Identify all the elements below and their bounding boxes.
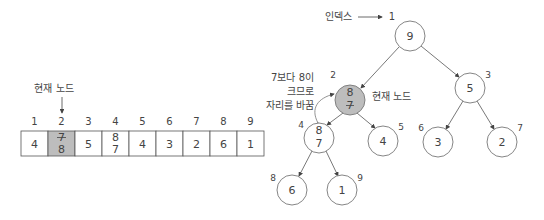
svg-text:5: 5 [85, 138, 92, 151]
svg-text:7: 7 [193, 116, 199, 127]
svg-text:3: 3 [485, 70, 491, 80]
heap-diagram: 현재 노드 1 2 3 4 5 6 7 8 9 4 7 8 5 8 7 4 3 … [0, 0, 544, 220]
svg-text:4: 4 [31, 138, 38, 151]
svg-text:2: 2 [58, 116, 64, 127]
tree-edges [299, 46, 494, 176]
svg-text:3: 3 [435, 136, 442, 149]
svg-text:9: 9 [357, 173, 363, 183]
svg-text:2: 2 [193, 138, 200, 151]
swap-note: 7보다 8이 크므로 자리를 바꿈 [266, 72, 314, 111]
svg-text:4: 4 [298, 120, 304, 130]
svg-text:자리를 바꿈: 자리를 바꿈 [266, 100, 314, 111]
svg-text:6: 6 [220, 138, 227, 151]
svg-text:5: 5 [139, 116, 145, 127]
svg-text:8: 8 [347, 86, 354, 99]
svg-text:8: 8 [270, 173, 276, 183]
svg-text:4: 4 [139, 138, 146, 151]
array-current-node-label: 현재 노드 [34, 83, 73, 94]
svg-text:1: 1 [339, 184, 346, 197]
svg-text:1: 1 [389, 11, 395, 22]
tree-current-node-label: 현재 노드 [372, 91, 411, 102]
svg-text:7: 7 [112, 143, 119, 156]
svg-text:5: 5 [398, 122, 404, 132]
svg-text:5: 5 [467, 82, 474, 95]
svg-text:8: 8 [58, 143, 65, 156]
array-indices: 1 2 3 4 5 6 7 8 9 [31, 116, 253, 127]
svg-text:4: 4 [380, 135, 387, 148]
svg-text:9: 9 [407, 30, 414, 43]
svg-text:8: 8 [220, 116, 226, 127]
svg-text:6: 6 [289, 184, 296, 197]
svg-text:1: 1 [31, 116, 37, 127]
svg-text:2: 2 [330, 70, 336, 80]
svg-text:9: 9 [247, 116, 253, 127]
svg-text:3: 3 [85, 116, 91, 127]
swap-curve-arrow [315, 94, 334, 123]
svg-text:6: 6 [166, 116, 172, 127]
svg-text:2: 2 [499, 136, 506, 149]
tree-node-values: 9 8 7 5 8 7 4 3 2 6 1 [289, 30, 506, 197]
svg-text:7보다 8이: 7보다 8이 [271, 72, 314, 83]
svg-text:6: 6 [418, 123, 424, 133]
svg-text:1: 1 [247, 138, 254, 151]
svg-text:3: 3 [166, 138, 173, 151]
svg-text:7: 7 [316, 137, 323, 150]
svg-text:4: 4 [112, 116, 118, 127]
svg-text:인덱스: 인덱스 [325, 11, 352, 22]
svg-text:7: 7 [517, 123, 523, 133]
svg-text:크므로: 크므로 [287, 86, 314, 97]
svg-text:현재 노드: 현재 노드 [34, 83, 73, 94]
index-label: 인덱스 [325, 11, 352, 22]
svg-text:8: 8 [316, 124, 323, 137]
